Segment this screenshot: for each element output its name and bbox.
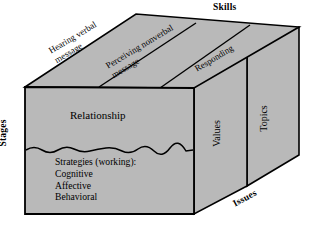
side-face-label-values: Values	[211, 120, 222, 147]
side-face-label-topics: Topics	[258, 105, 269, 132]
strategies-item-affective: Affective	[55, 180, 136, 192]
front-face-strategies-block: Strategies (working): Cognitive Affectiv…	[55, 156, 136, 203]
axis-label-stages: Stages	[0, 119, 8, 146]
diagram-canvas: Skills Stages Issues Hearing verbal mess…	[0, 0, 316, 232]
front-face-label-relationship: Relationship	[70, 109, 126, 121]
strategies-item-cognitive: Cognitive	[55, 168, 136, 180]
strategies-item-behavioral: Behavioral	[55, 191, 136, 203]
strategies-heading: Strategies (working):	[55, 156, 136, 168]
axis-label-skills: Skills	[213, 2, 236, 12]
